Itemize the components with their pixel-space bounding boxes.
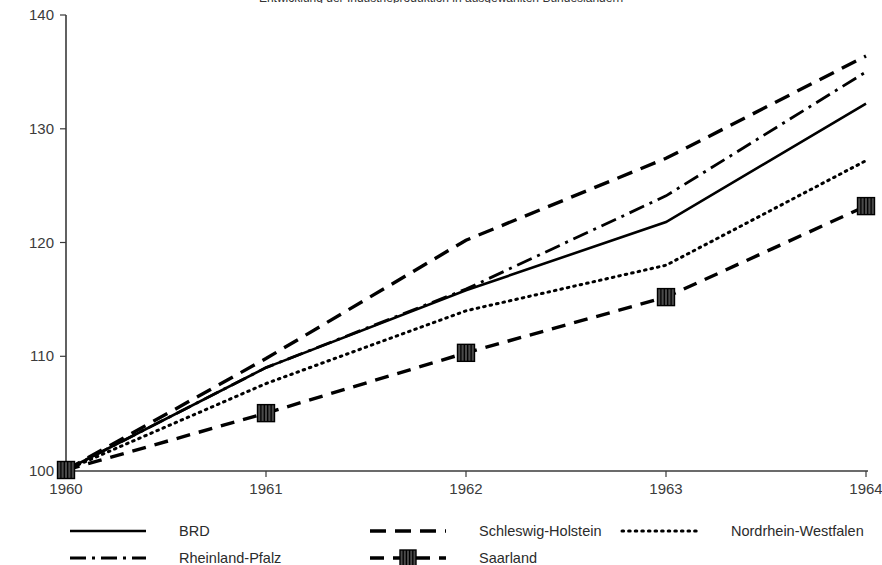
legend-label: Saarland (479, 550, 537, 565)
x-axis-ticks (66, 471, 866, 477)
x-tick-label-1960: 1960 (49, 480, 82, 497)
series-marker (458, 344, 475, 361)
legend-label: Nordrhein-Westfalen (731, 523, 864, 539)
legend-item-rheinland-pfalz[interactable]: Rheinland-Pfalz (70, 550, 281, 565)
x-tick-label-1962: 1962 (449, 480, 482, 497)
legend-label: BRD (179, 523, 210, 539)
line-chart-plot: 140 130 120 110 100 1960 1961 1962 1963 … (0, 0, 882, 565)
y-tick-label-140: 140 (29, 6, 54, 23)
series-line (66, 72, 866, 470)
series-nordrhein-westfalen (66, 161, 866, 470)
x-tick-label-1963: 1963 (649, 480, 682, 497)
data-series-layer (58, 56, 875, 479)
series-line (66, 206, 866, 470)
series-line (66, 161, 866, 470)
legend-label: Rheinland-Pfalz (179, 550, 281, 565)
series-brd (66, 104, 866, 470)
legend-item-schleswig-holstein[interactable]: Schleswig-Holstein (370, 523, 602, 539)
y-tick-label-120: 120 (29, 234, 54, 251)
legend-item-brd[interactable]: BRD (70, 523, 210, 539)
legend-item-nordrhein-westfalen[interactable]: Nordrhein-Westfalen (622, 523, 864, 539)
series-marker (858, 198, 875, 215)
x-tick-label-1964: 1964 (849, 480, 882, 497)
series-rheinland-pfalz (66, 72, 866, 470)
y-tick-label-130: 130 (29, 120, 54, 137)
y-tick-label-110: 110 (30, 347, 54, 364)
chart-container: Entwicklung der Industrieproduktion in a… (0, 0, 882, 565)
series-line (66, 104, 866, 470)
series-marker (58, 462, 75, 479)
x-tick-label-1961: 1961 (249, 480, 282, 497)
y-tick-label-100: 100 (29, 462, 54, 479)
legend-swatch-marker (400, 550, 416, 565)
legend-label: Schleswig-Holstein (479, 523, 602, 539)
legend-item-saarland[interactable]: Saarland (370, 550, 537, 565)
y-axis-ticks (60, 15, 66, 470)
series-marker (658, 289, 675, 306)
chart-legend: BRDSchleswig-HolsteinNordrhein-Westfalen… (70, 523, 864, 565)
series-marker (258, 405, 275, 422)
